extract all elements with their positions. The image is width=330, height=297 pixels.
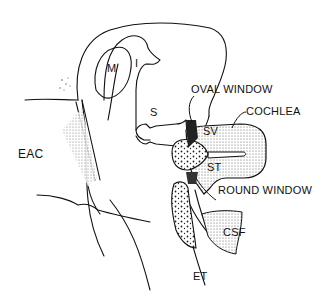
ear-diagram: EAC M I S OVAL WINDOW COCHLEA SV ST ROUN… [0, 0, 330, 297]
incus-outline [104, 36, 160, 140]
label-incus: I [135, 58, 138, 69]
label-csf: CSF [223, 227, 246, 238]
label-oval-window: OVAL WINDOW [191, 84, 273, 95]
label-malleus: M [107, 63, 116, 74]
eac-lower-wall [37, 195, 150, 222]
label-cochlea: COCHLEA [246, 106, 301, 117]
eustachian-tube-wall-left [110, 200, 150, 290]
label-scala-vestibuli: SV [203, 126, 218, 137]
label-stapes: S [150, 107, 158, 118]
label-round-window: ROUND WINDOW [218, 185, 312, 196]
bone-speckle [59, 77, 70, 90]
label-eac: EAC [18, 148, 43, 160]
ear-anatomy-drawing [0, 0, 330, 297]
middle-ear-cavity-outline [77, 23, 226, 116]
petrous-bone [172, 182, 196, 248]
eac-upper-wall [25, 99, 78, 100]
oval-window-leader [189, 96, 194, 122]
label-scala-tympani: ST [207, 162, 221, 173]
tympanic-membrane-stipple [62, 108, 97, 186]
label-eustachian-tube: ET [193, 271, 207, 282]
